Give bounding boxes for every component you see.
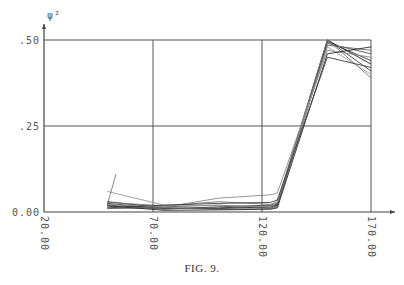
series-line-run-5 xyxy=(107,45,371,209)
series-line-run-6 xyxy=(107,40,371,206)
x-tick-label: 20.00 xyxy=(39,216,50,251)
chart: ψ²0.00.25.5020.0070.00120.00170.00 xyxy=(0,0,404,285)
series-line-run-10 xyxy=(107,57,371,208)
y-axis-label: ψ² xyxy=(47,10,61,21)
x-axis-arrow-icon xyxy=(390,210,395,214)
y-tick-label: .25 xyxy=(19,121,40,132)
x-tick-label: 70.00 xyxy=(148,216,159,251)
x-tick-label: 170.00 xyxy=(366,216,377,258)
series-line-run-8 xyxy=(107,47,371,207)
series-line-run-1 xyxy=(107,40,371,209)
y-tick-label: .50 xyxy=(19,35,40,46)
series-line-run-7 xyxy=(107,50,371,207)
y-axis-arrow-icon xyxy=(42,24,46,29)
series-start-mark xyxy=(107,174,116,205)
x-tick-label: 120.00 xyxy=(257,216,268,258)
series-line-run-9 xyxy=(107,47,371,210)
figure-caption: FIG. 9. xyxy=(0,262,404,274)
y-tick-label: 0.00 xyxy=(12,207,40,218)
series-line-run-3 xyxy=(107,40,371,209)
series-line-run-2 xyxy=(107,42,371,209)
